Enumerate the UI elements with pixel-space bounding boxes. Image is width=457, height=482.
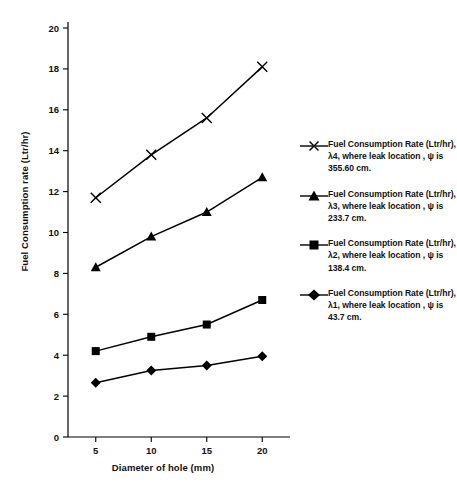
data-point-marker [257,351,267,361]
y-axis-tick-label: 14 [48,145,59,156]
data-point-marker [91,193,101,203]
data-point-marker [257,62,267,72]
series-line [96,356,263,383]
legend-marker-x-icon [300,139,328,153]
y-axis-title: Fuel Consumption rate (Ltr/hr) [19,122,30,282]
data-point-marker [202,360,212,370]
series-line [96,67,263,198]
x-axis-title: Diameter of hole (mm) [58,462,268,473]
legend-marker-triangle-icon [300,189,328,203]
x-axis-tick-label: 15 [201,445,212,456]
legend-item-label: Fuel Consumption Rate (Ltr/hr), λ2, wher… [328,237,457,274]
data-point-marker [147,333,155,341]
series-line [96,177,263,267]
data-point-marker [202,207,212,216]
data-point-marker [146,366,156,376]
data-point-marker [146,232,156,241]
data-point-marker [92,347,100,355]
data-point-marker [91,262,101,271]
data-point-marker [91,378,101,388]
legend-item: Fuel Consumption Rate (Ltr/hr), λ2, wher… [300,237,457,274]
data-point-marker [146,150,156,160]
y-axis-tick-label: 16 [48,104,59,115]
line-chart-svg: 024681012141618205101520 [0,0,300,482]
data-point-marker [202,113,212,123]
legend-item-label: Fuel Consumption Rate (Ltr/hr), λ4, wher… [328,138,457,175]
legend-item: Fuel Consumption Rate (Ltr/hr), λ1, wher… [300,287,457,324]
data-point-marker [258,296,266,304]
legend-item: Fuel Consumption Rate (Ltr/hr), λ4, wher… [300,138,457,175]
legend-item-label: Fuel Consumption Rate (Ltr/hr), λ3, wher… [328,188,457,225]
y-axis-tick-label: 0 [54,432,59,443]
data-point-marker [203,321,211,329]
y-axis-tick-label: 18 [48,63,59,74]
y-axis-tick-label: 8 [54,268,59,279]
chart-legend: Fuel Consumption Rate (Ltr/hr), λ4, wher… [300,138,457,336]
y-axis-tick-label: 20 [48,23,59,34]
y-axis-tick-label: 10 [48,227,59,238]
chart-plot-area: 024681012141618205101520 Fuel Consumptio… [0,0,300,482]
legend-marker-square-icon [300,238,328,252]
y-axis-tick-label: 2 [54,391,59,402]
x-axis-tick-label: 20 [257,445,268,456]
chart-page: 024681012141618205101520 Fuel Consumptio… [0,0,457,482]
y-axis-tick-label: 4 [54,350,60,361]
x-axis-tick-label: 5 [93,445,99,456]
legend-item: Fuel Consumption Rate (Ltr/hr), λ3, wher… [300,188,457,225]
data-point-marker [257,172,267,181]
x-axis-tick-label: 10 [146,445,157,456]
y-axis-tick-label: 12 [48,186,59,197]
y-axis-tick-label: 6 [54,309,59,320]
series-line [96,300,263,351]
legend-item-label: Fuel Consumption Rate (Ltr/hr), λ1, wher… [328,287,457,324]
legend-marker-diamond-icon [300,288,328,302]
